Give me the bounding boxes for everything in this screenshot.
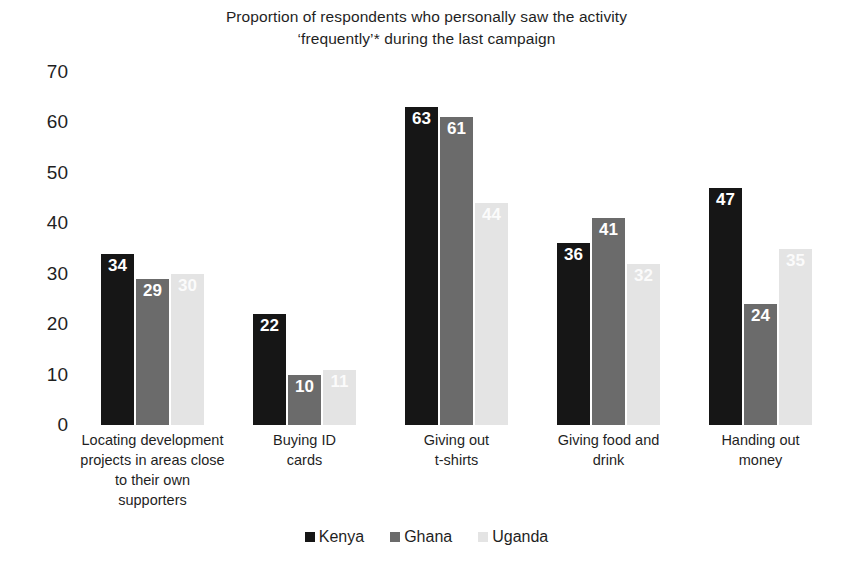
bar-value-label: 47 [709, 191, 742, 209]
bar-value-label: 41 [592, 221, 625, 239]
legend-item-ghana[interactable]: Ghana [390, 528, 452, 546]
bar-ghana-3[interactable]: 61 [440, 117, 473, 425]
bar-ghana-4[interactable]: 41 [592, 218, 625, 425]
bar-group-bars: 342930 [101, 72, 204, 425]
bar-ghana-2[interactable]: 10 [288, 375, 321, 425]
x-axis-label-line: Handing out [676, 430, 846, 450]
y-axis-tick-50: 50 [22, 163, 68, 182]
chart-plot-frame: 706050403020100 342930221011636144364132… [0, 0, 853, 580]
bar-value-label: 11 [323, 373, 356, 391]
legend-swatch-kenya [305, 532, 315, 542]
bar-value-label: 30 [171, 277, 204, 295]
x-axis-label-3: Giving outt-shirts [372, 430, 542, 470]
x-axis-label-line: t-shirts [372, 450, 542, 470]
legend-item-kenya[interactable]: Kenya [305, 528, 364, 546]
bar-kenya-1[interactable]: 34 [101, 254, 134, 425]
x-axis-label-line: Buying ID [220, 430, 390, 450]
bar-value-label: 24 [744, 307, 777, 325]
bar-kenya-3[interactable]: 63 [405, 107, 438, 425]
bar-value-label: 32 [627, 267, 660, 285]
y-axis-tick-30: 30 [22, 264, 68, 283]
y-axis-tick-20: 20 [22, 314, 68, 333]
x-axis-label-line: Giving out [372, 430, 542, 450]
bar-group: 636144 [405, 72, 508, 425]
y-axis-tick-70: 70 [22, 62, 68, 81]
y-axis-tick-40: 40 [22, 213, 68, 232]
bar-group-bars: 636144 [405, 72, 508, 425]
x-axis-label-2: Buying IDcards [220, 430, 390, 470]
bar-ghana-1[interactable]: 29 [136, 279, 169, 425]
bar-group-bars: 472435 [709, 72, 812, 425]
bar-ghana-5[interactable]: 24 [744, 304, 777, 425]
x-axis-label-line: money [676, 450, 846, 470]
x-axis-label-line: drink [524, 450, 694, 470]
bar-uganda-1[interactable]: 30 [171, 274, 204, 425]
bar-value-label: 22 [253, 317, 286, 335]
x-axis-label-line: Giving food and [524, 430, 694, 450]
legend-label: Ghana [404, 528, 452, 546]
bar-value-label: 44 [475, 206, 508, 224]
bar-group-bars: 364132 [557, 72, 660, 425]
bar-value-label: 36 [557, 246, 590, 264]
bar-value-label: 10 [288, 378, 321, 396]
bar-uganda-3[interactable]: 44 [475, 203, 508, 425]
bar-group-bars: 221011 [253, 72, 356, 425]
y-axis-tick-10: 10 [22, 365, 68, 384]
bar-uganda-2[interactable]: 11 [323, 370, 356, 425]
bar-group: 364132 [557, 72, 660, 425]
bar-group: 472435 [709, 72, 812, 425]
x-axis-label-line: supporters [48, 490, 258, 510]
legend-item-uganda[interactable]: Uganda [478, 528, 548, 546]
bar-kenya-4[interactable]: 36 [557, 243, 590, 425]
x-axis-label-line: to their own [48, 470, 258, 490]
legend-label: Kenya [319, 528, 364, 546]
legend-swatch-uganda [478, 532, 488, 542]
bar-kenya-2[interactable]: 22 [253, 314, 286, 425]
x-axis-label-line: cards [220, 450, 390, 470]
bar-value-label: 63 [405, 110, 438, 128]
bar-value-label: 61 [440, 120, 473, 138]
bar-group: 221011 [253, 72, 356, 425]
x-axis-label-4: Giving food anddrink [524, 430, 694, 470]
legend-label: Uganda [492, 528, 548, 546]
bar-value-label: 29 [136, 282, 169, 300]
bar-group: 342930 [101, 72, 204, 425]
y-axis-tick-60: 60 [22, 112, 68, 131]
bar-value-label: 34 [101, 257, 134, 275]
bar-kenya-5[interactable]: 47 [709, 188, 742, 425]
x-axis-label-5: Handing outmoney [676, 430, 846, 470]
bar-uganda-4[interactable]: 32 [627, 264, 660, 425]
bar-value-label: 35 [779, 252, 812, 270]
legend-swatch-ghana [390, 532, 400, 542]
bar-uganda-5[interactable]: 35 [779, 249, 812, 426]
chart-legend: KenyaGhanaUganda [0, 528, 853, 546]
plot-area: 342930221011636144364132472435 [83, 72, 838, 425]
